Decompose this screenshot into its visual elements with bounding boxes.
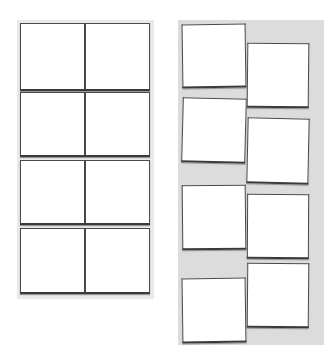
photo-frame bbox=[247, 194, 309, 259]
photo-frame bbox=[20, 228, 85, 294]
photo-frame bbox=[182, 278, 247, 344]
photo-frame bbox=[182, 185, 247, 251]
staggered-layout-panel bbox=[178, 20, 324, 345]
photo-frame bbox=[181, 97, 247, 164]
photo-frame bbox=[247, 43, 310, 109]
photo-frame bbox=[182, 24, 247, 89]
photo-frame bbox=[85, 92, 150, 157]
photo-frame bbox=[20, 160, 85, 225]
photo-frame bbox=[85, 160, 150, 225]
photo-frame bbox=[85, 23, 150, 91]
photo-frame bbox=[85, 228, 150, 294]
grid-layout-panel bbox=[17, 20, 154, 299]
photo-frame bbox=[247, 263, 310, 329]
photo-frame bbox=[20, 23, 85, 91]
photo-frame bbox=[246, 117, 309, 184]
photo-frame bbox=[20, 92, 85, 157]
